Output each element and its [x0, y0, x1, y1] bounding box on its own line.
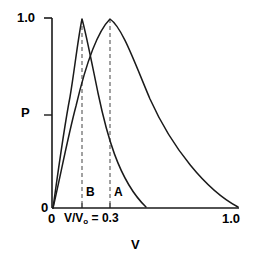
- curve-a-path: [53, 19, 238, 208]
- curve-b-label: B: [86, 186, 95, 198]
- ratio-tail-text: = 0.3: [88, 211, 118, 225]
- ratio-subscript: o: [83, 217, 88, 226]
- curve-a-label: A: [114, 186, 123, 198]
- plot-canvas: [0, 0, 255, 262]
- x-axis-title: V: [131, 238, 140, 251]
- chart-figure: 1.0 0 P 0 1.0 V V/Vo = 0.3 B A: [0, 0, 255, 262]
- y-axis-title: P: [21, 106, 30, 119]
- ratio-main-text: V/V: [64, 211, 83, 225]
- x-tick-zero-label: 0: [48, 212, 55, 225]
- x-tick-max-label: 1.0: [222, 212, 240, 225]
- ratio-annotation: V/Vo = 0.3: [64, 212, 119, 224]
- y-tick-top-label: 1.0: [17, 11, 35, 24]
- curve-b-path: [53, 19, 146, 208]
